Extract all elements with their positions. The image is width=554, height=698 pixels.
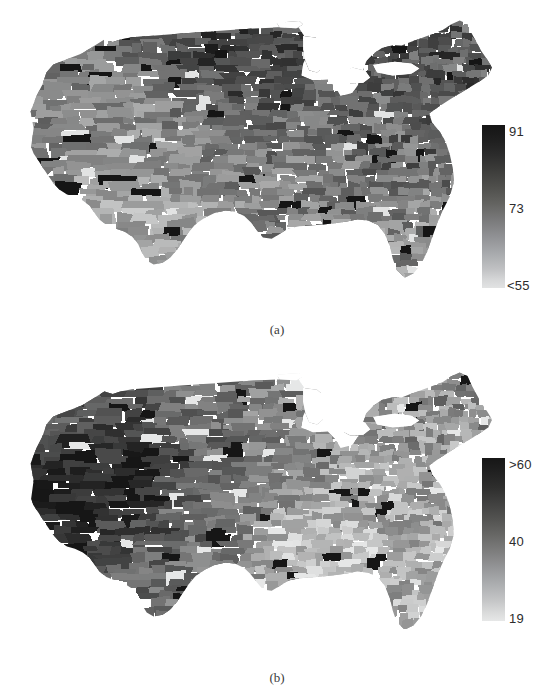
county-polygon [217,201,236,214]
county-polygon [349,214,365,227]
county-polygon-group [8,17,500,282]
county-polygon [469,44,482,52]
county-polygon [190,514,207,520]
county-polygon [458,90,472,96]
county-polygon [471,430,482,440]
county-polygon [122,509,145,515]
county-polygon [442,554,455,569]
great-lake-water-body [330,378,366,395]
colorbar-b [482,458,505,621]
county-polygon [327,572,349,586]
county-polygon [55,181,83,196]
figure-panel-b: >60 40 19 (b) [0,348,554,698]
county-polygon [405,155,419,163]
county-polygon [294,573,317,580]
county-polygon [276,207,289,214]
county-polygon [190,579,208,586]
county-polygon [301,188,326,195]
county-polygon [428,552,443,561]
county-polygon [434,155,454,164]
county-polygon [287,220,313,229]
county-polygon [68,397,86,407]
county-polygon [436,26,450,32]
county-polygon [100,214,112,225]
county-polygon [219,483,242,490]
great-lake-water-body [277,373,304,380]
county-polygon [206,368,229,381]
colorbar-b-label-max: >60 [509,457,532,472]
county-polygon [414,423,423,430]
county-polygon [76,410,98,417]
county-polygon [77,214,103,220]
county-polygon [271,168,296,175]
great-lake-water-body [330,26,366,43]
county-polygon [454,390,466,397]
county-polygon [266,143,282,150]
choropleth-map-b-svg [8,358,500,658]
panel-b-caption: (b) [0,670,554,686]
county-polygon [488,72,499,85]
county-polygon [466,83,475,97]
county-polygon [71,527,100,533]
county-polygon [424,376,441,384]
county-polygon [469,409,477,418]
county-polygon [305,224,328,239]
county-polygon [261,233,282,250]
county-polygon [211,567,239,582]
county-polygon [450,441,459,458]
county-polygon [438,37,452,46]
colorbar-a-label-max: 91 [509,124,524,139]
county-polygon [344,571,361,588]
county-polygon [442,202,451,211]
county-polygon [398,187,409,195]
county-polygon [362,567,374,577]
county-polygon [237,182,260,189]
county-polygon [195,216,225,229]
county-polygon [139,607,155,619]
county-polygon [423,255,441,266]
county-polygon [271,463,287,469]
county-polygon [490,65,501,73]
county-polygon [420,612,430,630]
county-polygon [372,51,386,58]
county-polygon [379,606,398,617]
county-polygon [175,586,197,592]
county-polygon [451,520,469,537]
county-polygon [8,122,37,132]
county-polygon [333,441,350,452]
county-polygon [428,599,438,616]
county-polygon [438,96,455,105]
county-polygon [439,208,449,227]
county-polygon [197,410,217,415]
county-polygon [128,195,144,202]
county-polygon [164,252,198,264]
county-polygon [175,247,196,254]
county-polygon [393,599,401,606]
county-polygon [448,449,460,459]
county-polygon [382,29,395,45]
county-polygon [462,436,477,445]
county-polygon [418,585,439,595]
county-polygon [243,455,261,463]
county-polygon [10,167,56,176]
county-polygon [423,189,431,195]
great-lake-water-body [339,68,371,84]
county-polygon-group [8,362,500,640]
county-polygon [407,626,417,640]
county-polygon [87,572,114,579]
county-polygon [70,103,96,109]
great-lake-water-body [277,21,304,28]
choropleth-map-a [8,6,500,306]
county-polygon [197,567,214,584]
county-polygon [23,443,46,454]
county-polygon [234,76,257,85]
county-polygon [424,247,444,254]
county-polygon [325,186,342,196]
county-polygon [251,578,266,587]
county-polygon [389,155,407,162]
county-polygon [420,260,442,277]
county-polygon [79,97,101,104]
county-polygon [136,462,151,468]
county-polygon [159,469,172,477]
county-polygon [318,574,326,585]
